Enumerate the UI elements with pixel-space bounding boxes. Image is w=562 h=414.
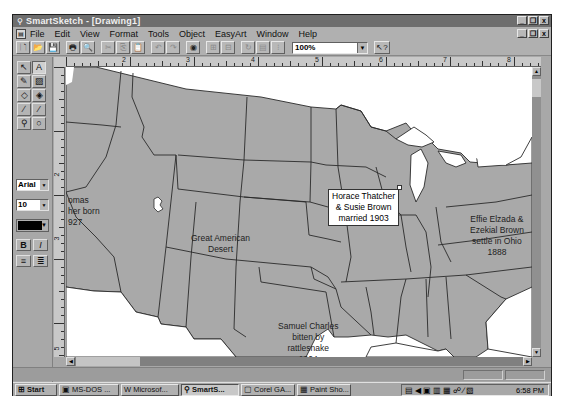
- minimize-button[interactable]: _: [517, 16, 527, 25]
- font-name-select[interactable]: Arial ▼: [16, 179, 49, 191]
- new-icon: 🗋: [20, 43, 26, 52]
- align-right-button[interactable]: ≣: [33, 255, 48, 267]
- open-folder-icon: 📂: [33, 43, 43, 52]
- scroll-down-button[interactable]: ▼: [532, 348, 541, 357]
- ruler-label: 5: [315, 57, 319, 63]
- ruler-label: 2: [54, 173, 60, 177]
- paint-bucket-tool[interactable]: ◈: [32, 89, 46, 102]
- brush-tool[interactable]: ∕: [17, 103, 31, 116]
- lasso-icon: ○: [36, 118, 41, 128]
- align-left-button[interactable]: ≡: [16, 255, 31, 267]
- menu-view[interactable]: View: [80, 29, 99, 39]
- lasso-tool[interactable]: ○: [32, 117, 46, 130]
- doc-restore-button[interactable]: ❐: [528, 29, 538, 38]
- print-button[interactable]: 🖶: [66, 41, 80, 54]
- redo-button[interactable]: ↷: [166, 41, 180, 54]
- annotation-effie-ezekial[interactable]: Effie Elzada & Ezekial Brown settle in O…: [470, 214, 524, 258]
- eraser-tool[interactable]: ◇: [17, 89, 31, 102]
- cut-button[interactable]: ✂: [101, 41, 115, 54]
- menu-tools[interactable]: Tools: [148, 29, 169, 39]
- scroll-right-button[interactable]: ▶: [523, 357, 532, 366]
- taskbar-item-paintshop[interactable]: ▦ Paint Sho...: [297, 384, 351, 396]
- keyboard-icon[interactable]: ▦: [443, 386, 451, 395]
- windows-logo-icon: ⊞: [18, 385, 25, 394]
- font-size-select[interactable]: 10 ▼: [16, 199, 49, 211]
- start-button[interactable]: ⊞ Start: [15, 384, 57, 396]
- taskbar-item-microsoft[interactable]: W Microsof...: [121, 384, 179, 396]
- new-button[interactable]: 🗋: [16, 41, 30, 54]
- pen-icon[interactable]: ∕: [463, 386, 464, 395]
- paste-button[interactable]: 📋: [131, 41, 145, 54]
- ungroup-button[interactable]: ⊟: [221, 41, 235, 54]
- horizontal-ruler: 2 3 4 5 6 7 8: [66, 57, 541, 67]
- chevron-down-icon[interactable]: ▼: [40, 180, 48, 190]
- bold-button[interactable]: B: [16, 239, 31, 251]
- print-preview-icon: 🔍: [83, 43, 93, 52]
- taskbar-item-msdos[interactable]: ▣ MS-DOS ...: [59, 384, 119, 396]
- clipboard-icon: 📋: [133, 43, 143, 52]
- italic-button[interactable]: I: [33, 239, 48, 251]
- fill-tool[interactable]: ▨: [32, 75, 46, 88]
- color-swatch: [18, 221, 42, 230]
- vertical-scroll-thumb[interactable]: [532, 79, 541, 97]
- drawing-canvas[interactable]: omas her born 927 Great American Desert …: [66, 67, 532, 357]
- menu-edit[interactable]: Edit: [55, 29, 71, 39]
- save-button[interactable]: 💾: [46, 41, 60, 54]
- scheduler-icon[interactable]: ▧: [466, 386, 474, 395]
- speaker-icon[interactable]: ◀: [415, 386, 421, 395]
- smartsketch-app-icon[interactable]: ⚲: [15, 17, 24, 26]
- clock[interactable]: 6:58 PM: [516, 386, 544, 395]
- taskbar-item-smartsketch[interactable]: ⚲ SmartS...: [181, 384, 239, 396]
- resize-handle[interactable]: [397, 185, 402, 190]
- eyedropper-tool[interactable]: ⁄: [32, 103, 46, 116]
- restore-button[interactable]: ❐: [528, 16, 538, 25]
- printer-icon: 🖶: [69, 43, 77, 52]
- context-help-button[interactable]: ↖?: [374, 41, 390, 54]
- pencil-tool[interactable]: ✎: [17, 75, 31, 88]
- horizontal-scroll-thumb[interactable]: [76, 357, 140, 366]
- open-button[interactable]: 📂: [31, 41, 45, 54]
- copy-button[interactable]: ⎘: [116, 41, 130, 54]
- network-icon[interactable]: ▤: [405, 386, 413, 395]
- taskbar-item-corel[interactable]: ▢ Corel GA...: [241, 384, 295, 396]
- print-preview-button[interactable]: 🔍: [81, 41, 95, 54]
- italic-icon: I: [39, 240, 42, 250]
- menu-help[interactable]: Help: [298, 29, 317, 39]
- horizontal-scrollbar[interactable]: ◀ ▶: [66, 357, 532, 366]
- annotation-great-american-desert[interactable]: Great American Desert: [191, 233, 250, 255]
- zoom-select[interactable]: 100% ▼: [292, 42, 368, 54]
- menu-easyart[interactable]: EasyArt: [215, 29, 247, 39]
- annotation-samuel-charles[interactable]: Samuel Charles bitten by rattlesnake 190…: [278, 321, 338, 357]
- magnifier-icon: ⚲: [21, 118, 28, 128]
- menu-format[interactable]: Format: [109, 29, 138, 39]
- doc-close-button[interactable]: x: [539, 29, 549, 38]
- selected-text-box[interactable]: Horace Thatcher & Susie Brown married 19…: [328, 189, 399, 226]
- scroll-up-button[interactable]: ▲: [532, 67, 541, 76]
- text-a-icon: A: [36, 62, 42, 72]
- document-icon[interactable]: ▤: [16, 29, 26, 39]
- doc-minimize-button[interactable]: _: [517, 29, 527, 38]
- monitor-icon[interactable]: ▣: [423, 386, 431, 395]
- close-button[interactable]: x: [539, 16, 549, 25]
- text-color-picker[interactable]: ▼: [16, 219, 49, 232]
- vertical-scrollbar[interactable]: ▲ ▼: [532, 67, 541, 357]
- menu-file[interactable]: File: [30, 29, 45, 39]
- rotate-button[interactable]: ↻: [241, 41, 255, 54]
- distribute-button[interactable]: ⁝: [271, 41, 285, 54]
- chevron-down-icon: ▼: [41, 222, 47, 228]
- chevron-down-icon[interactable]: ▼: [357, 43, 367, 53]
- modem-icon[interactable]: ☍: [453, 386, 461, 395]
- annotation-thomas[interactable]: omas her born 927: [68, 195, 100, 228]
- text-tool[interactable]: A: [32, 61, 46, 74]
- undo-button[interactable]: ↶: [151, 41, 165, 54]
- group-button[interactable]: ⊞: [206, 41, 220, 54]
- menu-object[interactable]: Object: [179, 29, 205, 39]
- display-icon[interactable]: ▥: [433, 386, 441, 395]
- menu-window[interactable]: Window: [256, 29, 288, 39]
- select-tool[interactable]: ↖: [17, 61, 31, 74]
- chevron-down-icon[interactable]: ▼: [40, 200, 48, 210]
- align-button[interactable]: ▤: [256, 41, 270, 54]
- scroll-left-button[interactable]: ◀: [66, 357, 75, 366]
- symbol-library-button[interactable]: ◉: [186, 41, 200, 54]
- zoom-tool[interactable]: ⚲: [17, 117, 31, 130]
